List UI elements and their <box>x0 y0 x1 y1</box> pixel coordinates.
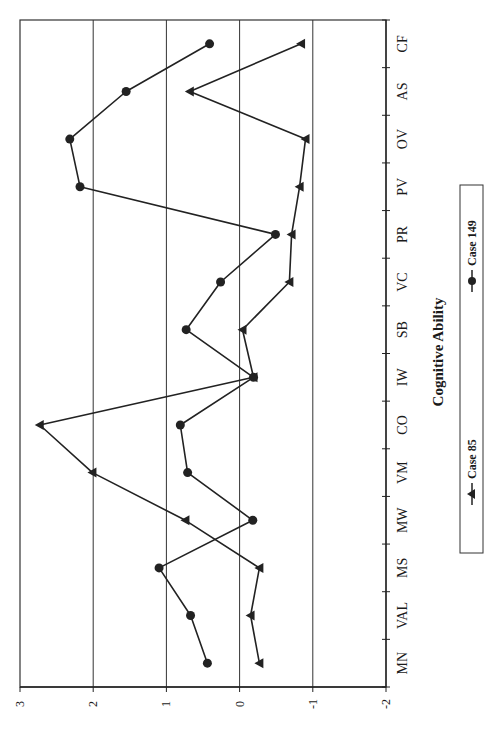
legend-label: Case 149 <box>465 220 479 266</box>
circle-marker-icon <box>76 182 85 191</box>
circle-marker-icon <box>203 659 212 668</box>
value-tick-label: -1 <box>306 699 320 709</box>
category-label: MN <box>395 652 410 675</box>
category-label: MS <box>395 558 410 578</box>
category-label: SB <box>395 321 410 338</box>
circle-marker-icon <box>65 135 74 144</box>
category-axis: MNVALMSMWVMCOIWSBVCPRPVOVASCF <box>382 20 410 687</box>
x-axis-label: Cognitive Ability <box>430 297 446 406</box>
value-tick-label: -2 <box>379 699 393 709</box>
value-tick-label: 2 <box>86 701 100 707</box>
circle-marker-icon <box>176 420 185 429</box>
category-label: VM <box>395 461 410 484</box>
category-label: CO <box>395 415 410 434</box>
value-tick-label: 3 <box>13 701 27 707</box>
chart: 3210-1-2 MNVALMSMWVMCOIWSBVCPRPVOVASCF C… <box>0 0 491 752</box>
x-axis-title: Cognitive Ability <box>430 297 446 406</box>
circle-marker-icon <box>205 39 214 48</box>
circle-marker-icon <box>216 278 225 287</box>
circle-marker-icon <box>468 277 476 285</box>
category-label: PV <box>395 178 410 196</box>
circle-marker-icon <box>155 563 164 572</box>
value-axis: 3210-1-2 <box>13 687 393 709</box>
circle-marker-icon <box>122 87 131 96</box>
legend-label: Case 85 <box>465 439 479 479</box>
line-chart-svg: 3210-1-2 MNVALMSMWVMCOIWSBVCPRPVOVASCF C… <box>0 0 491 752</box>
value-tick-label: 0 <box>233 701 247 707</box>
circle-marker-icon <box>248 516 257 525</box>
category-label: AS <box>395 83 410 101</box>
circle-marker-icon <box>182 325 191 334</box>
value-tick-label: 1 <box>159 701 173 707</box>
category-label: OV <box>395 129 410 149</box>
circle-marker-icon <box>271 230 280 239</box>
legend: Case 85 Case 149 <box>460 185 483 553</box>
category-label: PR <box>395 225 410 243</box>
category-label: MW <box>395 507 410 533</box>
category-label: VC <box>395 272 410 291</box>
circle-marker-icon <box>249 373 258 382</box>
circle-marker-icon <box>183 468 192 477</box>
plot-border <box>20 20 386 687</box>
circle-marker-icon <box>186 611 195 620</box>
category-label: VAL <box>395 602 410 629</box>
plot-area <box>20 20 386 687</box>
category-label: CF <box>395 35 410 52</box>
category-label: IW <box>395 368 410 387</box>
